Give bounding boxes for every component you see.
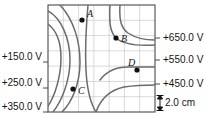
contour-right-350 xyxy=(96,85,155,112)
point-label-c: C xyxy=(78,86,85,96)
field-points xyxy=(70,17,139,91)
plot-grid xyxy=(48,5,155,112)
point-marker-b xyxy=(113,35,118,40)
point-label-a: A xyxy=(87,9,93,19)
point-marker-c xyxy=(70,86,75,91)
contour-right-450 xyxy=(100,67,155,80)
scale-bar-label: 2.0 cm xyxy=(165,98,195,108)
plot-border xyxy=(48,5,155,112)
scale-bar-icon xyxy=(157,95,164,111)
potential-label-left-3: +350.0 V xyxy=(2,102,42,112)
contour-mid-steep xyxy=(86,5,96,112)
potential-label-left-1: +150.0 V xyxy=(2,52,42,62)
equipotential-contours xyxy=(48,5,155,112)
point-label-b: B xyxy=(121,34,127,44)
contour-map-figure: +150.0 V +250.0 V +350.0 V +650.0 V +550… xyxy=(0,0,205,126)
contour-left-150 xyxy=(48,24,61,106)
potential-label-right-3: +450.0 V xyxy=(163,79,203,89)
point-marker-d xyxy=(134,67,139,72)
potential-label-left-2: +250.0 V xyxy=(2,78,42,88)
potential-label-right-1: +650.0 V xyxy=(163,33,203,43)
point-label-d: D xyxy=(128,58,135,68)
point-marker-a xyxy=(79,17,84,22)
potential-label-right-2: +550.0 V xyxy=(163,55,203,65)
